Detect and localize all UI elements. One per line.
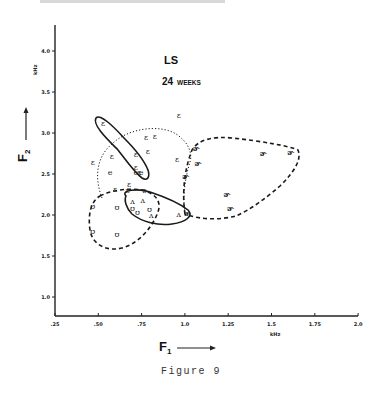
x-tick-label: .25	[51, 321, 60, 327]
data-point-ʌ: ʌ	[148, 211, 154, 220]
data-point-ʌ: ʌ	[139, 196, 145, 205]
data-point-ɚ: ɚ	[259, 148, 267, 158]
y-tick-label: 1.0	[41, 294, 50, 300]
x-tick-label: 1.0	[180, 321, 189, 327]
figure-caption: Figure 9	[0, 366, 382, 377]
data-point-ʌ: ʌ	[176, 210, 182, 219]
y-tick-label: 1.5	[41, 253, 50, 259]
data-point-ɛ: ε	[153, 132, 157, 141]
data-point-ɚ: ɚ	[184, 208, 192, 218]
data-point-ʊ: ʊ	[114, 230, 119, 239]
x-axis-title: F 1	[159, 339, 216, 356]
data-point-e: e	[108, 168, 113, 177]
chart-title-age-number: 24	[162, 76, 174, 87]
right-arrow-head-icon	[210, 346, 216, 351]
data-point-ɛ: ε	[113, 185, 117, 194]
x-tick-label: .75	[137, 321, 146, 327]
data-point-ʊ: ʊ	[90, 227, 95, 236]
data-point-ɚ: ɚ	[287, 147, 295, 157]
data-point-ʊ: ʊ	[90, 202, 95, 211]
data-point-ʌ: ʌ	[129, 197, 135, 206]
x-tick-label: .50	[94, 321, 103, 327]
data-point-ɛ: ε	[101, 119, 105, 128]
data-point-ɛ: ε	[125, 186, 129, 195]
y-axis-title: F 2	[15, 107, 32, 162]
er-dashed-outline	[184, 138, 299, 219]
x-axis-ticks: .25.50.751.01.251.51.752.0	[51, 313, 363, 327]
data-points: εεεεεεεεεεεεεεεeeeɚɚɚɚɚɚɚɚʊʊʊʊʊʊʊʌʌʌʌ	[90, 111, 295, 239]
up-arrow-head-icon	[24, 107, 29, 113]
y-tick-label: 2.0	[41, 212, 50, 218]
data-point-ʊ: ʊ	[114, 203, 119, 212]
data-point-e: e	[139, 168, 144, 177]
data-point-ɛ: ε	[146, 147, 150, 156]
data-point-ɚ: ɚ	[227, 203, 235, 213]
data-point-ɚ: ɚ	[182, 171, 190, 181]
data-point-ɛ: ε	[91, 158, 95, 167]
data-point-ɛ: ε	[110, 152, 114, 161]
chart-title-age-unit: WEEKS	[177, 79, 202, 86]
category-outlines	[89, 117, 299, 249]
data-point-ɛ: ε	[134, 150, 138, 159]
data-point-ɛ: ε	[142, 186, 146, 195]
data-point-ɛ: ε	[177, 111, 181, 120]
x-tick-label: 1.75	[309, 321, 322, 327]
data-point-ɛ: ε	[175, 155, 179, 164]
chart-title-speaker: LS	[164, 54, 178, 66]
svg-text:1: 1	[167, 347, 172, 356]
data-point-ɚ: ɚ	[192, 143, 200, 153]
data-point-ʊ: ʊ	[135, 208, 140, 217]
data-point-ɛ: ε	[144, 133, 148, 142]
x-tick-label: 1.5	[267, 321, 276, 327]
y-tick-label: 4.0	[41, 48, 50, 54]
svg-text:F: F	[15, 154, 30, 162]
data-point-ɚ: ɚ	[223, 189, 231, 199]
x-tick-label: 2.0	[354, 321, 363, 327]
svg-text:2: 2	[23, 149, 32, 154]
vowel-formant-chart: .25.50.751.01.251.51.752.0 1.01.52.02.53…	[0, 0, 382, 398]
y-tick-label: 2.5	[41, 171, 50, 177]
x-axis-unit-label: kHz	[270, 331, 281, 337]
y-axis-unit-label: kHz	[32, 64, 38, 75]
y-tick-label: 3.0	[41, 130, 50, 136]
x-tick-label: 1.25	[222, 321, 235, 327]
y-axis-ticks: 1.01.52.02.53.03.54.0	[41, 48, 55, 300]
svg-text:F: F	[159, 339, 167, 354]
data-point-ɚ: ɚ	[194, 158, 202, 168]
y-tick-label: 3.5	[41, 89, 50, 95]
